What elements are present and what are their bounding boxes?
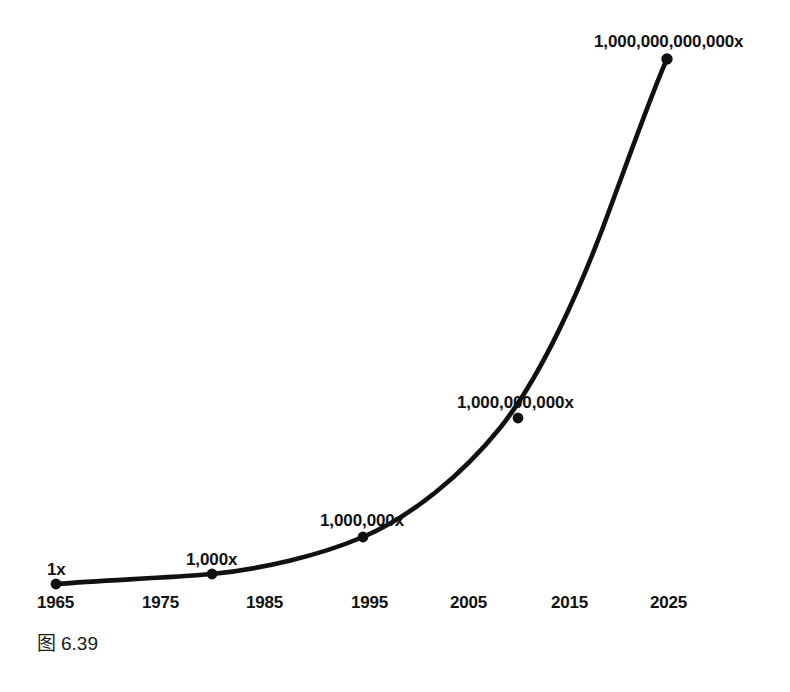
data-point-label-1000000000x: 1,000,000,000x [457, 394, 574, 411]
data-point-label-1000000000000x: 1,000,000,000,000x [594, 33, 743, 50]
data-point-label-1000x: 1,000x [186, 551, 237, 568]
x-axis-tick-2005: 2005 [450, 594, 487, 611]
data-point-marker-2010 [513, 413, 524, 424]
x-axis-tick-1995: 1995 [351, 594, 388, 611]
figure-caption-number: 6.39 [61, 633, 98, 654]
figure-container: 1x 1,000x 1,000,000x 1,000,000,000x 1,00… [0, 0, 790, 692]
data-point-marker-1965 [51, 579, 62, 590]
data-point-label-1x: 1x [47, 561, 66, 578]
figure-caption: 图6.39 [37, 634, 98, 653]
series-line-group [56, 59, 667, 584]
x-axis-tick-2025: 2025 [650, 594, 687, 611]
data-point-marker-1995 [358, 532, 369, 543]
x-axis-tick-1965: 1965 [37, 594, 74, 611]
data-point-label-1000000x: 1,000,000x [320, 512, 404, 529]
exponential-growth-line-chart [0, 0, 790, 692]
figure-caption-prefix: 图 [37, 632, 56, 654]
data-point-marker-1980 [207, 569, 218, 580]
x-axis-tick-1975: 1975 [142, 594, 179, 611]
x-axis-tick-2015: 2015 [551, 594, 588, 611]
data-point-marker-2025 [661, 53, 672, 64]
series-markers-group [51, 53, 673, 589]
growth-curve-path [56, 59, 667, 584]
x-axis-tick-1985: 1985 [246, 594, 283, 611]
